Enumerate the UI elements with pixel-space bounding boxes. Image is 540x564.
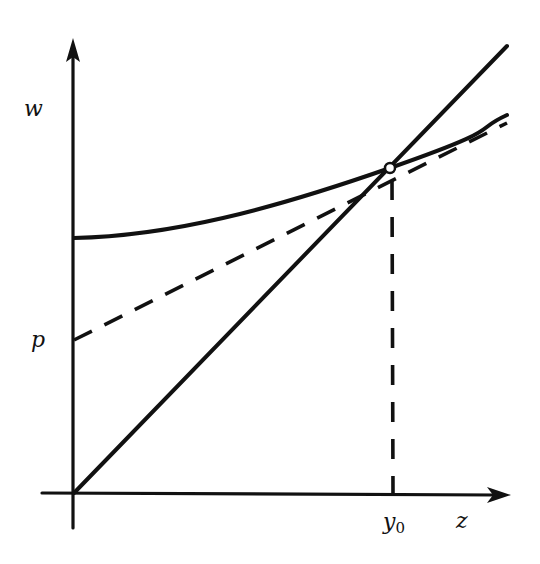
y0-label-subscript: 0 (395, 519, 405, 537)
z-axis (42, 493, 496, 495)
y0-drop-line (392, 180, 393, 493)
z-axis-label: z (455, 508, 468, 533)
y0-label: y0 (382, 509, 405, 537)
y0-label-main: y (382, 509, 396, 534)
convex-curve (74, 115, 507, 238)
diagonal-line (74, 46, 507, 493)
diagram-figure: w p z y0 (0, 0, 540, 564)
tangent-point-marker (385, 163, 395, 173)
p-intercept-label: p (31, 327, 45, 352)
w-axis-label: w (24, 96, 43, 121)
